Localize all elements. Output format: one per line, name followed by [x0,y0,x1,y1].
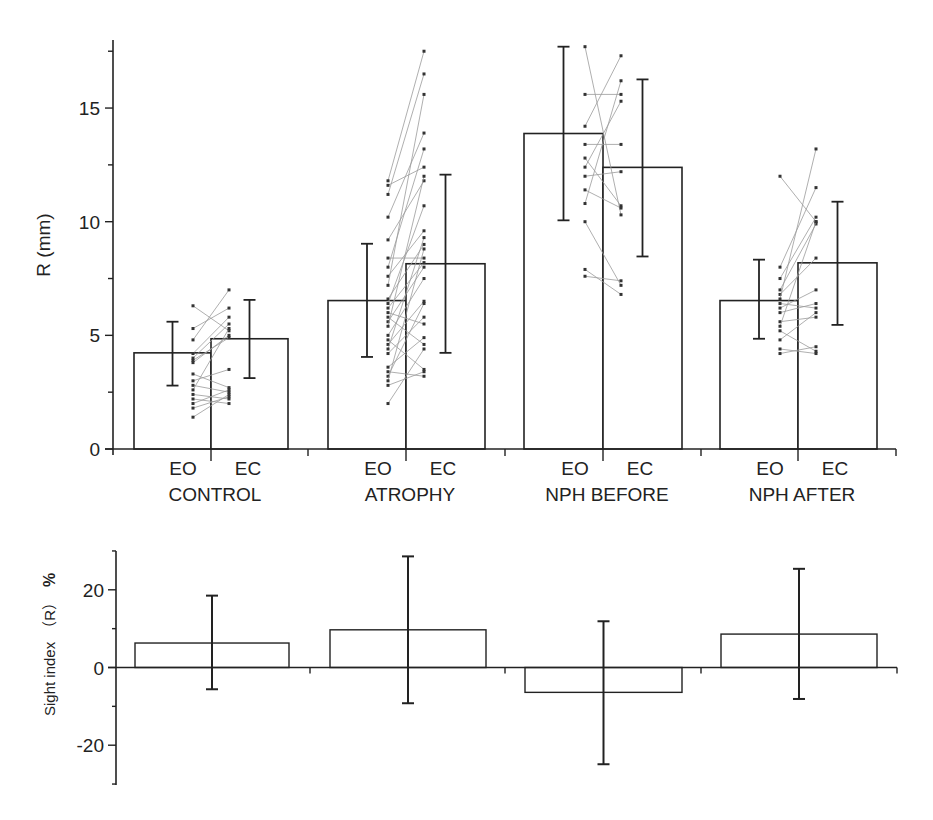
subject-point-ec [228,307,231,310]
subject-point-ec [228,336,231,339]
subject-point-eo [387,325,390,328]
subject-point-eo [387,284,390,287]
subject-point-ec [423,257,426,260]
subject-point-eo [584,202,587,205]
x-label-eo: EO [364,458,391,479]
subject-point-eo [387,316,390,319]
subject-point-eo [192,393,195,396]
subject-point-eo [192,407,195,410]
subject-point-eo [779,329,782,332]
subject-point-ec [423,147,426,150]
subject-point-eo [779,347,782,350]
subject-point-ec [423,229,426,232]
y-tick-label: -20 [77,735,104,756]
subject-point-ec [620,293,623,296]
subject-point-ec [620,143,623,146]
subject-point-eo [584,188,587,191]
subject-point-eo [192,359,195,362]
subject-point-ec [815,257,818,260]
subject-point-ec [815,352,818,355]
subject-point-eo [584,220,587,223]
subject-point-eo [387,311,390,314]
subject-point-ec [815,186,818,189]
chart-canvas: 051015EOECCONTROLEOECATROPHYEOECNPH BEFO… [0,0,933,820]
subject-point-eo [584,93,587,96]
subject-point-ec [423,261,426,264]
subject-point-ec [228,388,231,391]
subject-point-eo [387,338,390,341]
subject-point-eo [584,45,587,48]
subject-point-eo [584,125,587,128]
subject-point-eo [387,402,390,405]
subject-pair-line [193,308,229,328]
x-label-ec: EC [822,458,848,479]
y-tick-label: 20 [83,580,104,601]
y-tick-label: 5 [89,325,100,346]
subject-point-ec [620,207,623,210]
x-group-label: NPH AFTER [749,484,856,505]
subject-point-ec [815,311,818,314]
subject-point-ec [423,72,426,75]
subject-point-eo [387,302,390,305]
subject-point-ec [228,288,231,291]
y-tick-label: 0 [93,658,104,679]
subject-point-ec [423,93,426,96]
x-label-ec: EC [627,458,653,479]
subject-point-ec [423,343,426,346]
subject-point-eo [387,216,390,219]
subject-point-eo [584,166,587,169]
subject-point-eo [387,193,390,196]
subject-point-ec [423,243,426,246]
subject-point-eo [779,325,782,328]
subject-point-ec [228,368,231,371]
x-label-ec: EC [235,458,261,479]
subject-point-eo [192,416,195,419]
subject-point-eo [387,384,390,387]
subject-point-eo [584,268,587,271]
subject-point-eo [779,297,782,300]
subject-point-ec [620,100,623,103]
x-label-eo: EO [169,458,196,479]
subject-point-ec [620,284,623,287]
subject-point-eo [387,238,390,241]
subject-point-eo [779,307,782,310]
x-label-ec: EC [430,458,456,479]
subject-point-eo [387,334,390,337]
subject-point-eo [779,175,782,178]
subject-point-eo [779,311,782,314]
subject-point-ec [228,327,231,330]
subject-point-ec [815,147,818,150]
top-panel-r-mm: 051015EOECCONTROLEOECATROPHYEOECNPH BEFO… [33,40,896,505]
subject-point-eo [779,352,782,355]
x-label-eo: EO [756,458,783,479]
subject-point-eo [192,352,195,355]
subject-point-eo [387,179,390,182]
subject-point-ec [620,170,623,173]
subject-point-eo [192,379,195,382]
subject-point-eo [387,352,390,355]
subject-point-eo [387,379,390,382]
subject-point-ec [423,336,426,339]
subject-point-ec [815,216,818,219]
subject-point-eo [779,277,782,280]
subject-point-ec [423,166,426,169]
subject-point-eo [779,288,782,291]
subject-point-eo [779,338,782,341]
subject-point-eo [387,257,390,260]
subject-point-ec [423,204,426,207]
subject-point-ec [620,54,623,57]
subject-point-ec [620,213,623,216]
y-axis-title-unit: % [41,573,58,587]
subject-point-eo [192,384,195,387]
y-tick-label: 15 [79,98,100,119]
x-group-label: NPH BEFORE [545,484,669,505]
y-tick-label: 10 [79,212,100,233]
subject-point-eo [387,370,390,373]
subject-point-eo [584,275,587,278]
x-label-eo: EO [561,458,588,479]
subject-point-eo [192,327,195,330]
subject-point-ec [228,393,231,396]
subject-point-ec [423,347,426,350]
figure: 051015EOECCONTROLEOECATROPHYEOECNPH BEFO… [0,0,933,820]
x-group-label: ATROPHY [365,484,456,505]
